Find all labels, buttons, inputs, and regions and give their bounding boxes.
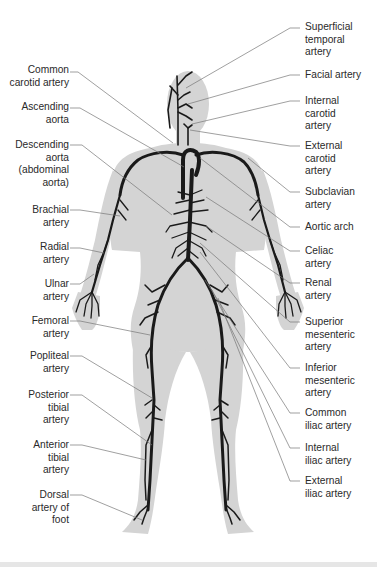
label-facial-artery: Facial artery (305, 69, 361, 82)
label-celiac-artery: Celiac artery (305, 245, 333, 270)
label-external-carotid-artery: External carotid artery (305, 140, 342, 178)
label-femoral-artery: Femoral artery (32, 315, 69, 340)
label-internal-carotid-artery: Internal carotid artery (305, 95, 339, 133)
label-popliteal-artery: Popliteal artery (30, 350, 69, 375)
label-subclavian-artery: Subclavian artery (305, 186, 355, 211)
label-dorsal-artery-of-foot: Dorsal artery of foot (32, 489, 69, 527)
bottom-border-strip (0, 562, 377, 567)
label-descending-aorta: Descending aorta (abdominal aorta) (15, 139, 69, 189)
label-external-iliac-artery: External iliac artery (305, 475, 351, 500)
label-renal-artery: Renal artery (305, 277, 332, 302)
label-superior-mesenteric-artery: Superior mesenteric artery (305, 316, 355, 354)
label-anterior-tibial-artery: Anterior tibial artery (33, 439, 69, 477)
label-internal-iliac-artery: Internal iliac artery (305, 442, 351, 467)
label-posterior-tibial-artery: Posterior tibial artery (28, 389, 69, 427)
label-radial-artery: Radial artery (40, 241, 69, 266)
label-ulnar-artery: Ulnar artery (43, 278, 69, 303)
label-brachial-artery: Brachial artery (32, 204, 69, 229)
label-ascending-aorta: Ascending aorta (21, 101, 69, 126)
label-inferior-mesenteric-artery: Inferior mesenteric artery (305, 362, 355, 400)
label-superficial-temporal-artery: Superficial temporal artery (305, 21, 353, 59)
label-common-carotid-artery: Common carotid artery (10, 64, 69, 89)
label-common-iliac-artery: Common iliac artery (305, 407, 351, 432)
label-aortic-arch: Aortic arch (305, 221, 354, 234)
